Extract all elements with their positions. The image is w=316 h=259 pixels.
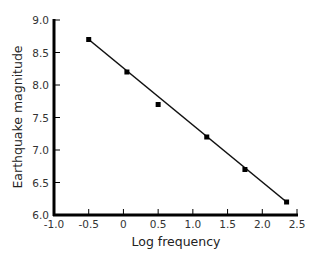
data-point-marker: [86, 37, 91, 42]
x-tick-label: 2.0: [254, 218, 271, 230]
data-point-marker: [204, 135, 209, 140]
y-tick-label: 8.0: [32, 79, 49, 91]
y-axis-title: Earthquake magnitude: [10, 45, 25, 188]
x-tick-label: 0.5: [150, 218, 167, 230]
x-tick-label: 1.5: [219, 218, 236, 230]
y-axis-ticks: 6.06.57.07.58.08.59.0: [32, 14, 60, 221]
fit-line: [89, 40, 287, 203]
x-tick-label: -0.5: [78, 218, 99, 230]
data-point-marker: [156, 102, 161, 107]
x-tick-label: -1.0: [44, 218, 65, 230]
regression-line: [89, 40, 287, 203]
x-axis-title: Log frequency: [132, 234, 222, 249]
x-tick-label: 2.5: [289, 218, 306, 230]
x-axis-ticks: -1.0-0.500.51.01.52.02.5: [44, 209, 306, 230]
y-tick-label: 7.0: [32, 144, 49, 156]
y-tick-label: 8.5: [32, 47, 49, 59]
data-point-marker: [242, 167, 247, 172]
x-tick-label: 1.0: [185, 218, 202, 230]
y-tick-label: 6.5: [32, 177, 49, 189]
data-point-marker: [284, 200, 289, 205]
data-point-marker: [124, 70, 129, 75]
chart: 6.06.57.07.58.08.59.0 -1.0-0.500.51.01.5…: [0, 0, 316, 259]
y-tick-label: 9.0: [32, 14, 49, 26]
y-tick-label: 7.5: [32, 112, 49, 124]
x-tick-label: 0: [120, 218, 127, 230]
